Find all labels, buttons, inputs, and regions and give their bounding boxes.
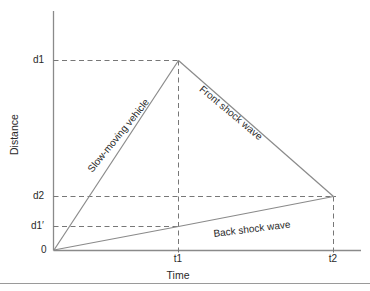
y-tick-label-d1-prime: d1′ bbox=[31, 221, 44, 231]
x-tick-label-t1: t1 bbox=[174, 254, 182, 264]
shock-wave-figure: Distance Time d1 d2 d1′ 0 t1 t2 Slow-mov… bbox=[0, 0, 370, 291]
plot-canvas bbox=[0, 0, 370, 291]
y-tick-label-d1: d1 bbox=[33, 55, 44, 65]
series-back-shock-wave bbox=[54, 197, 334, 251]
series-slow-moving-vehicle bbox=[54, 61, 179, 251]
x-tick-label-t2: t2 bbox=[329, 254, 337, 264]
y-tick-label-d2: d2 bbox=[33, 191, 44, 201]
x-axis-title: Time bbox=[167, 270, 190, 281]
y-axis-title: Distance bbox=[9, 114, 20, 155]
origin-tick-label: 0 bbox=[41, 245, 47, 255]
